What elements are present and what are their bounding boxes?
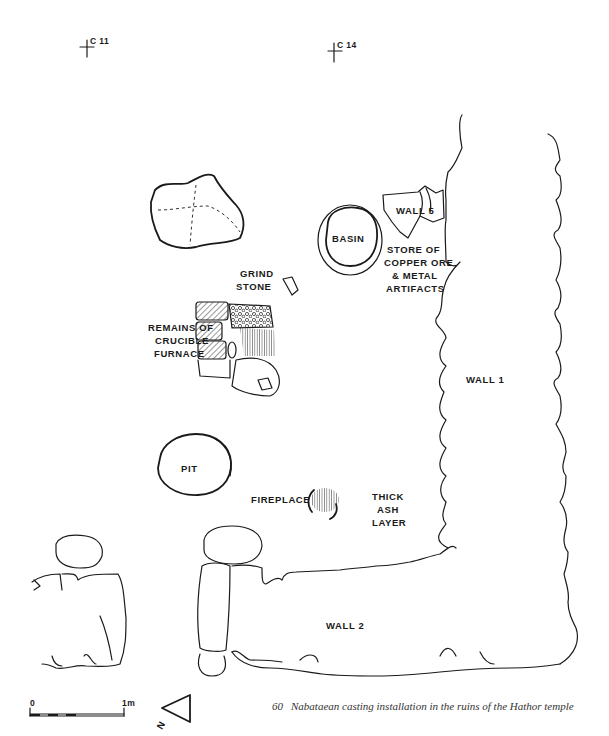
figure-number: 60	[272, 700, 283, 712]
svg-text:1m: 1m	[122, 698, 135, 708]
svg-text:ASH: ASH	[377, 504, 399, 515]
grid-marker-label: C 11	[90, 36, 109, 46]
large-stone	[151, 175, 244, 248]
svg-text:FURNACE: FURNACE	[154, 348, 205, 359]
wall-1: WALL 1	[436, 115, 578, 664]
basin: BASIN	[318, 205, 382, 275]
svg-text:0: 0	[30, 698, 35, 708]
basin-label: BASIN	[332, 233, 365, 244]
svg-text:LAYER: LAYER	[372, 517, 406, 528]
stones-bottom-left	[32, 535, 126, 668]
wall-1-label: WALL 1	[466, 374, 504, 385]
wall-2: WALL 2	[198, 526, 560, 676]
fireplace-label: FIREPLACE	[251, 494, 310, 505]
svg-text:THICK: THICK	[372, 491, 404, 502]
grid-marker-label: C 14	[337, 40, 357, 50]
wall-5-label: WALL 5	[396, 205, 434, 216]
ash-layer-label: THICK ASH LAYER	[372, 491, 406, 528]
north-arrow: N	[154, 695, 190, 731]
svg-text:STONE: STONE	[236, 281, 272, 292]
caption-text: Nabataean casting installation in the ru…	[291, 700, 574, 712]
fireplace: FIREPLACE	[251, 488, 339, 519]
north-letter: N	[154, 719, 167, 731]
store-label: STORE OF COPPER ORE & METAL ARTIFACTS	[384, 244, 453, 294]
svg-text:REMAINS OF: REMAINS OF	[148, 322, 214, 333]
svg-text:& METAL: & METAL	[392, 270, 438, 281]
grid-marker-c11: C 11	[80, 36, 109, 57]
svg-text:CRUCIBLE: CRUCIBLE	[155, 335, 209, 346]
wall-2-label: WALL 2	[326, 620, 364, 631]
pit: PIT	[158, 434, 231, 495]
svg-text:GRIND: GRIND	[240, 268, 274, 279]
crucible-furnace: REMAINS OF CRUCIBLE FURNACE	[148, 302, 279, 396]
figure-caption: 60Nabataean casting installation in the …	[272, 700, 602, 712]
pit-label: PIT	[181, 463, 198, 474]
svg-text:COPPER ORE: COPPER ORE	[384, 257, 453, 268]
svg-text:STORE OF: STORE OF	[387, 244, 440, 255]
svg-text:ARTIFACTS: ARTIFACTS	[386, 283, 445, 294]
scale-bar: 0 1m	[30, 698, 135, 716]
wall-5: WALL 5	[383, 186, 444, 238]
grid-marker-c14: C 14	[328, 40, 357, 62]
grind-stone: GRIND STONE	[236, 268, 298, 295]
site-plan: C 11 C 14 BASIN WALL 5 STORE OF COPPER O…	[0, 0, 609, 736]
